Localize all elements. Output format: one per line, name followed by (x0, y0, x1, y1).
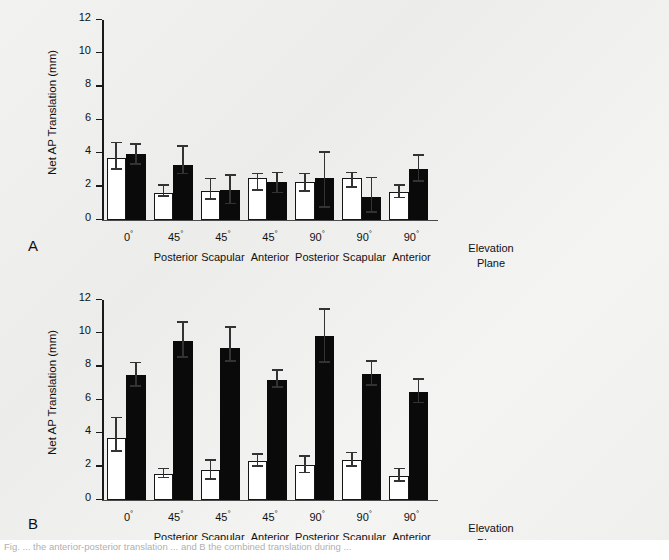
error-bar-cap-lower (252, 189, 263, 191)
y-tick: 8 (96, 365, 102, 367)
plot-area-a: 024681012 (102, 20, 432, 220)
error-bar-cap-upper (252, 453, 263, 455)
x-label-plane: Scapular (338, 250, 391, 265)
error-bar-cap-lower (319, 361, 330, 363)
error-bar-cap-upper (130, 362, 141, 364)
error-bar-line (210, 179, 212, 200)
error-bar-cap-lower (252, 465, 263, 467)
x-label-plane: Anterior (385, 250, 438, 265)
bar-group (295, 300, 342, 500)
x-label-angle: 45° (243, 226, 296, 245)
bar-black (126, 375, 146, 500)
error-bar-cap-upper (413, 154, 424, 156)
y-tick: 10 (96, 332, 102, 334)
x-label-angle: 0° (102, 506, 155, 525)
bar-group (248, 20, 295, 220)
error-bar-cap-lower (205, 198, 216, 200)
error-bar-cap-upper (111, 142, 122, 144)
error-bar-cap-lower (158, 477, 169, 479)
bar-group (154, 20, 201, 220)
panel-letter-b: B (28, 515, 38, 532)
error-bar-cap-upper (177, 321, 188, 323)
error-bar-cap-lower (272, 192, 283, 194)
y-tick-label: 2 (85, 177, 91, 189)
error-bar-line (371, 178, 373, 212)
x-label-plane: Anterior (243, 250, 296, 265)
y-tick: 2 (96, 185, 102, 187)
error-bar-cap-upper (394, 468, 405, 470)
error-bar-cap-upper (225, 326, 236, 328)
y-tick-label: 6 (85, 391, 91, 403)
bar-black (220, 348, 240, 501)
bar-group (201, 300, 248, 500)
error-bar-line (229, 328, 231, 362)
error-bar-cap-upper (205, 178, 216, 180)
error-bar-cap-lower (413, 180, 424, 182)
panel-letter-a: A (28, 237, 38, 254)
bar-black (267, 380, 287, 500)
y-tick: 6 (96, 119, 102, 121)
y-tick: 8 (96, 85, 102, 87)
x-label-group: 90°Anterior (385, 506, 438, 545)
x-label-angle: 45° (149, 226, 202, 245)
error-bar-cap-lower (111, 450, 122, 452)
y-tick-label: 8 (85, 77, 91, 89)
error-bar-cap-upper (394, 184, 405, 186)
error-bar-cap-lower (205, 478, 216, 480)
x-label-group: 45°Scapular (196, 506, 249, 545)
x-label-group: 45°Posterior (149, 226, 202, 265)
x-label-angle: 90° (385, 226, 438, 245)
error-bar-cap-lower (394, 197, 405, 199)
error-bar-cap-upper (272, 172, 283, 174)
x-label-group: 90°Posterior (291, 226, 344, 265)
error-bar-line (276, 173, 278, 193)
error-bar-cap-lower (299, 472, 310, 474)
x-label-group: 0° (102, 506, 155, 530)
y-tick: 12 (96, 19, 102, 21)
error-bar-cap-upper (319, 308, 330, 310)
bar-black (409, 392, 429, 500)
error-bar-cap-upper (319, 151, 330, 153)
bar-group (342, 20, 389, 220)
x-label-angle: 90° (291, 226, 344, 245)
bar-group (295, 20, 342, 220)
x-label-group: 90°Posterior (291, 506, 344, 545)
x-label-group: 45°Anterior (243, 226, 296, 265)
bar-series-a (104, 20, 434, 220)
error-bar-cap-lower (346, 465, 357, 467)
x-axis-title-line1-b: Elevation (456, 521, 526, 536)
x-label-angle: 90° (385, 506, 438, 525)
x-label-plane: Posterior (291, 250, 344, 265)
error-bar-cap-upper (177, 145, 188, 147)
error-bar-line (304, 174, 306, 192)
error-bar-cap-lower (111, 168, 122, 170)
x-label-group: 45°Posterior (149, 506, 202, 545)
error-bar-cap-lower (366, 211, 377, 213)
error-bar-cap-upper (158, 184, 169, 186)
error-bar-cap-lower (299, 190, 310, 192)
x-label-angle: 45° (196, 226, 249, 245)
y-tick-label: 6 (85, 111, 91, 123)
error-bar-cap-lower (177, 356, 188, 358)
bar-group (201, 20, 248, 220)
x-label-plane: Scapular (196, 250, 249, 265)
y-axis-title-b: Net AP Translation (mm) (46, 330, 58, 455)
error-bar-cap-upper (158, 468, 169, 470)
bar-black (173, 341, 193, 500)
y-tick: 12 (96, 299, 102, 301)
x-label-angle: 0° (102, 226, 155, 245)
error-bar-cap-lower (319, 206, 330, 208)
error-bar-cap-upper (366, 360, 377, 362)
y-tick: 0 (96, 219, 102, 221)
bar-group (107, 20, 154, 220)
figure-container: A Net AP Translation (mm) 024681012 0°45… (0, 0, 669, 560)
x-label-angle: 90° (338, 506, 391, 525)
error-bar-line (418, 380, 420, 403)
bar-group (389, 300, 436, 500)
y-tick-label: 12 (79, 11, 91, 23)
bar-series-b (104, 300, 434, 500)
error-bar-line (115, 418, 117, 451)
y-tick-label: 4 (85, 144, 91, 156)
y-tick: 2 (96, 465, 102, 467)
error-bar-cap-lower (158, 195, 169, 197)
